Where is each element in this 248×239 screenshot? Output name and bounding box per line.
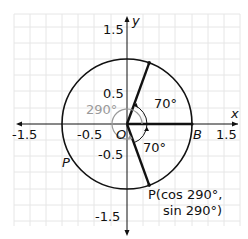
angle-70-lower-label: 70° [143,140,166,155]
x-axis-arrow-right [232,122,238,127]
point-upper [147,61,151,65]
point-p-coord-line2: sin 290°) [163,203,222,218]
x-tick-1.5: 1.5 [216,127,237,142]
point-b-label: B [193,127,202,142]
y-tick-0.5: 0.5 [103,86,124,101]
y-tick-neg-1.5: -1.5 [95,209,120,224]
y-axis-label: y [131,13,140,28]
y-tick-neg-0.5: -0.5 [98,147,123,162]
x-axis-label: x [230,106,239,121]
diagram-canvas: y x 1.5 0.5 -0.5 -1.5 -1.5 -0.5 1.5 O B … [0,0,248,239]
y-axis-arrow-up [125,16,130,22]
x-tick-neg-0.5: -0.5 [77,127,102,142]
y-axis-arrow-down [125,230,130,236]
point-b [190,122,193,125]
angle-290-label: 290° [86,102,117,117]
radius-70 [127,63,149,124]
x-tick-neg-1.5: -1.5 [12,127,37,142]
point-p-coord-line1: P(cos 290°, [148,187,222,202]
unit-circle-diagram: y x 1.5 0.5 -0.5 -1.5 -1.5 -0.5 1.5 O B … [0,0,248,239]
origin-label: O [116,127,126,142]
angle-70-upper-label: 70° [154,96,177,111]
point-p-left-label: P [62,155,70,170]
x-axis-arrow-left [16,122,22,127]
y-tick-1.5: 1.5 [103,22,124,37]
